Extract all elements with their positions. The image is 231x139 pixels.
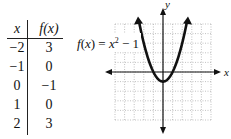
curve-arrow-right [183, 17, 192, 25]
function-graph: x y [0, 0, 231, 139]
x-axis-arrow-left [105, 69, 112, 75]
axes [105, 8, 221, 134]
x-axis-label: x [223, 66, 229, 78]
x-axis-arrow-right [214, 69, 221, 75]
function-label: f(x) = x2 − 1 [77, 33, 141, 52]
curve-arrow-left [134, 17, 143, 25]
y-axis-arrow-down [160, 127, 166, 134]
y-axis-label: y [164, 0, 170, 10]
